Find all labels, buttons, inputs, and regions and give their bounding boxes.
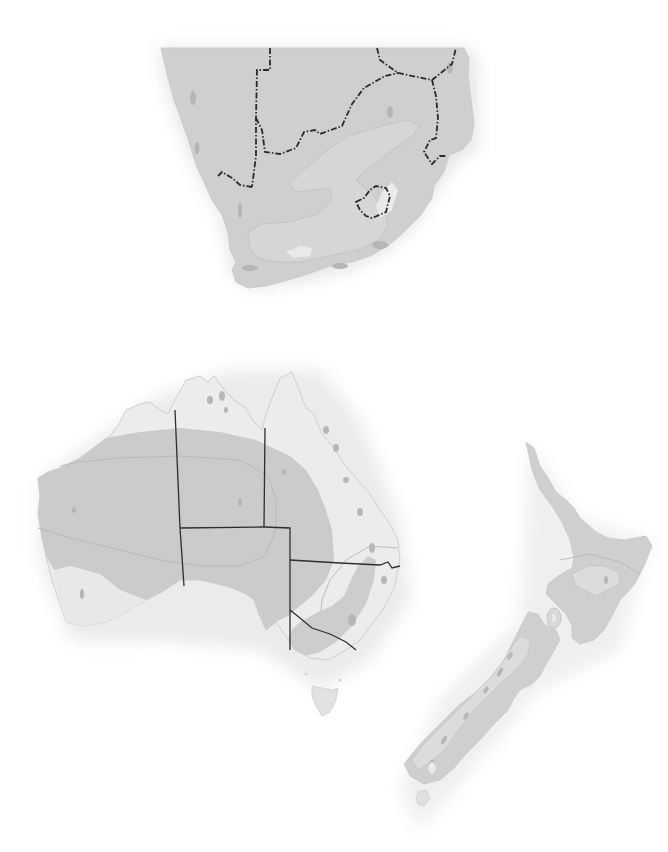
australia [38,370,410,716]
tasmania [312,686,338,716]
map-canvas [0,0,668,852]
south-island-lake [428,762,436,774]
new-zealand [400,442,652,830]
southern-africa [158,48,478,288]
